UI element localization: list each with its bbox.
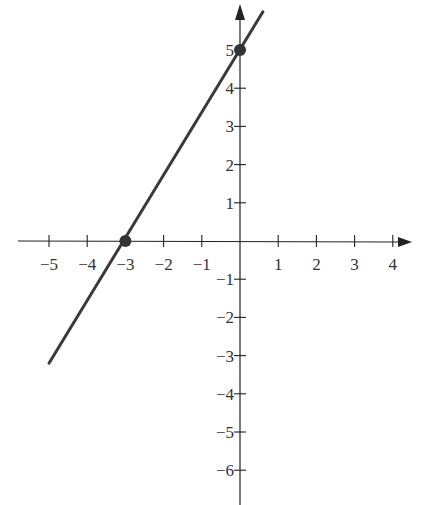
x-axis: [18, 241, 400, 242]
x-tick-label: 2: [312, 255, 321, 274]
y-tick-label: 2: [226, 156, 235, 175]
tick-labels: −5−4−3−2−1123454321−1−2−3−4−5−6: [40, 41, 398, 480]
tick-marks: [49, 50, 393, 470]
y-tick-label: −3: [216, 347, 234, 366]
y-tick-label: 1: [226, 194, 235, 213]
x-tick-label: 4: [389, 255, 398, 274]
x-tick-label: −5: [40, 255, 58, 274]
x-tick-label: −4: [78, 255, 97, 274]
y-tick-label: 5: [226, 41, 235, 60]
x-tick-label: 1: [274, 255, 283, 274]
x-tick-label: −3: [116, 255, 134, 274]
y-tick-label: 4: [226, 79, 235, 98]
x-tick-label: −2: [155, 255, 173, 274]
y-intercept-point: [234, 44, 246, 56]
x-tick-label: 3: [350, 255, 359, 274]
x-axis-arrow-icon: [398, 237, 412, 247]
y-tick-label: −5: [216, 423, 234, 442]
x-intercept-point: [119, 235, 131, 247]
x-tick-label: −1: [193, 255, 211, 274]
y-tick-label: −1: [216, 270, 234, 289]
y-tick-label: −6: [216, 461, 234, 480]
y-tick-label: −4: [216, 385, 235, 404]
y-axis-arrow-icon: [235, 4, 245, 20]
y-tick-label: −2: [216, 308, 234, 327]
coordinate-plane: −5−4−3−2−1123454321−1−2−3−4−5−6: [0, 0, 425, 505]
y-tick-label: 3: [226, 117, 235, 136]
